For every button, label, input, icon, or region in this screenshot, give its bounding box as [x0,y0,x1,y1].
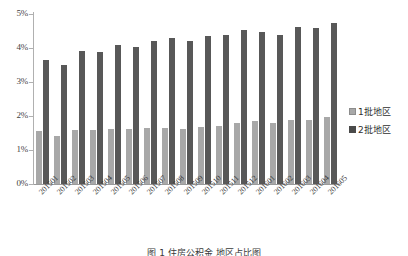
bar-2[interactable] [169,38,175,184]
bar-group [252,9,265,184]
bar-2[interactable] [223,35,229,184]
bar-2[interactable] [43,60,49,184]
bar-2[interactable] [331,23,337,184]
bar-2[interactable] [151,41,157,184]
legend-item-series-1[interactable]: 1批地区 [349,104,407,119]
bar-2[interactable] [313,28,319,184]
legend-label-series-1: 1批地区 [358,107,391,117]
bar-group [162,9,175,184]
bar-2[interactable] [61,65,67,184]
y-axis-tick-label-text: 0% [2,179,28,188]
bar-group [270,9,283,184]
figure-caption: 图 1 住房公积金 地区占比图 [0,248,408,256]
bar-group [90,9,103,184]
bar-group [72,9,85,184]
bar-2[interactable] [97,52,103,184]
bars-layer [33,0,340,185]
bar-group [216,9,229,184]
bar-2[interactable] [79,51,85,184]
y-axis-tick-label-text: 5% [2,9,28,18]
bar-group [234,9,247,184]
bar-2[interactable] [205,36,211,184]
bar-2[interactable] [241,30,247,184]
y-axis-tick-label: 1% [0,145,28,154]
y-axis-tick-label: 5% [0,9,28,18]
bar-group [180,9,193,184]
bar-group [54,9,67,184]
bar-2[interactable] [277,35,283,184]
bar-2[interactable] [115,45,121,184]
bar-group [288,9,301,184]
bar-group [198,9,211,184]
bar-group [126,9,139,184]
y-axis-tick-label: 4% [0,43,28,52]
bar-2[interactable] [295,27,301,184]
y-axis-tick-label: 0% [0,179,28,188]
bar-chart: 0%1%2%3%4%5% 201501201502201503201504201… [0,0,408,256]
y-axis-tick-label-text: 2% [2,111,28,120]
bar-group [144,9,157,184]
y-axis-tick-label-text: 1% [2,145,28,154]
bar-group [306,9,319,184]
bar-2[interactable] [259,32,265,184]
chart-legend: 1批地区 2批地区 [349,104,407,140]
legend-item-series-2[interactable]: 2批地区 [349,122,407,137]
y-axis-tick-label-text: 4% [2,43,28,52]
bar-group [108,9,121,184]
legend-label-series-2: 2批地区 [358,125,391,135]
y-axis-tick-label: 2% [0,111,28,120]
bar-group [324,9,337,184]
x-axis-labels: 2015012015022015032015042015052015062015… [33,186,340,242]
y-axis-tick-label: 3% [0,77,28,86]
y-axis-tick-label-text: 3% [2,77,28,86]
bar-1[interactable] [36,131,42,184]
light-gray-swatch-icon [349,108,356,115]
dark-gray-swatch-icon [349,126,356,133]
bar-2[interactable] [133,47,139,184]
bar-2[interactable] [187,41,193,184]
bar-group [36,9,49,184]
